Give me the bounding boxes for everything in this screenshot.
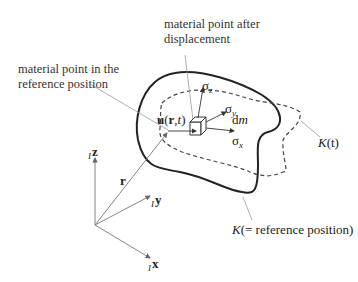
label-K-t: K(t) (318, 135, 339, 151)
position-vector-r (95, 133, 167, 225)
axis-z-name: z (92, 144, 98, 159)
material-element-cube (190, 117, 206, 135)
label-displacement-u: u(r,t) (157, 112, 186, 128)
label-after-displacement-line1: material point after (164, 17, 260, 32)
label-axis-z: Iz (88, 144, 98, 161)
axis-y-name: y (155, 192, 162, 207)
K-symbol: K (318, 135, 327, 150)
frame-prefix: I (88, 151, 91, 161)
label-dm: dm (232, 112, 248, 128)
paren-close: ) (181, 112, 185, 127)
sigma-symbol: σ (202, 78, 209, 93)
K-t-argument: (t) (327, 135, 339, 150)
label-axis-y: Iy (151, 192, 162, 209)
K-symbol: K (232, 222, 241, 237)
subscript-x: x (239, 140, 243, 150)
axis-x-name: x (152, 256, 159, 271)
frame-prefix: I (148, 263, 151, 273)
x-axis (95, 225, 150, 258)
sigma-symbol: σ (225, 101, 232, 116)
label-sigma-x: σx (232, 133, 243, 150)
y-axis (95, 196, 150, 225)
label-axis-x: Ix (148, 256, 159, 273)
leader-after-displacement (185, 55, 193, 120)
m-symbol: m (239, 112, 248, 127)
label-after-displacement-line2: displacement (164, 32, 260, 47)
leader-K-ref (243, 197, 252, 220)
frame-prefix: I (151, 199, 154, 209)
label-after-displacement: material point after displacement (164, 17, 260, 47)
label-reference-line1: material point in the (18, 62, 119, 77)
label-sigma-z: σz (202, 78, 213, 95)
label-r: r (120, 173, 126, 189)
sigma-symbol: σ (232, 133, 239, 148)
sigma-x-arrow (206, 128, 234, 131)
sigma-y-arrow (206, 112, 226, 122)
label-K-reference: K(= reference position) (232, 222, 353, 238)
label-reference-position: material point in the reference position (18, 62, 119, 92)
subscript-z: z (209, 85, 213, 95)
label-reference-line2: reference position (18, 77, 119, 92)
K-reference-text: (= reference position) (241, 222, 354, 237)
